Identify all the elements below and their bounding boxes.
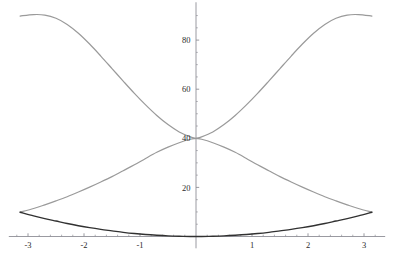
chart-svg: -3-2-112320406080 bbox=[0, 0, 393, 267]
y-tick-label: 20 bbox=[182, 183, 191, 193]
x-tick-label: 3 bbox=[362, 240, 366, 250]
y-tick-label: 60 bbox=[182, 84, 191, 94]
y-tick-label: 40 bbox=[182, 133, 191, 143]
y-tick-label: 80 bbox=[182, 35, 191, 45]
x-tick-label: -3 bbox=[24, 240, 31, 250]
x-tick-label: -1 bbox=[136, 240, 143, 250]
x-tick-label: 2 bbox=[306, 240, 310, 250]
x-tick-label: -2 bbox=[80, 240, 87, 250]
plot-canvas: -3-2-112320406080 bbox=[0, 0, 393, 267]
x-tick-label: 1 bbox=[250, 240, 254, 250]
